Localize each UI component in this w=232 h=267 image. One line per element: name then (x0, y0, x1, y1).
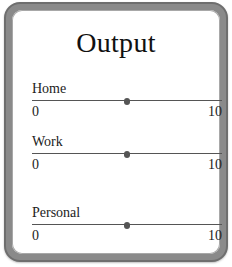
slider-label: Personal (32, 205, 80, 221)
slider-min-label: 0 (32, 228, 39, 244)
slider-min-label: 0 (32, 104, 39, 120)
panel-title: Output (12, 27, 220, 59)
output-panel: Output Home 0 10 Work 0 10 Personal 0 10 (12, 10, 220, 254)
slider-work[interactable]: Work 0 10 (32, 134, 222, 174)
slider-max-label: 10 (208, 104, 222, 120)
slider-thumb[interactable] (124, 151, 130, 158)
slider-min-label: 0 (32, 157, 39, 173)
slider-personal[interactable]: Personal 0 10 (32, 205, 222, 245)
output-panel-frame: Output Home 0 10 Work 0 10 Personal 0 10 (4, 2, 228, 262)
slider-max-label: 10 (208, 228, 222, 244)
slider-max-label: 10 (208, 157, 222, 173)
slider-thumb[interactable] (124, 222, 130, 229)
slider-thumb[interactable] (124, 98, 130, 105)
slider-label: Work (32, 134, 63, 150)
slider-home[interactable]: Home 0 10 (32, 81, 222, 121)
slider-label: Home (32, 81, 66, 97)
